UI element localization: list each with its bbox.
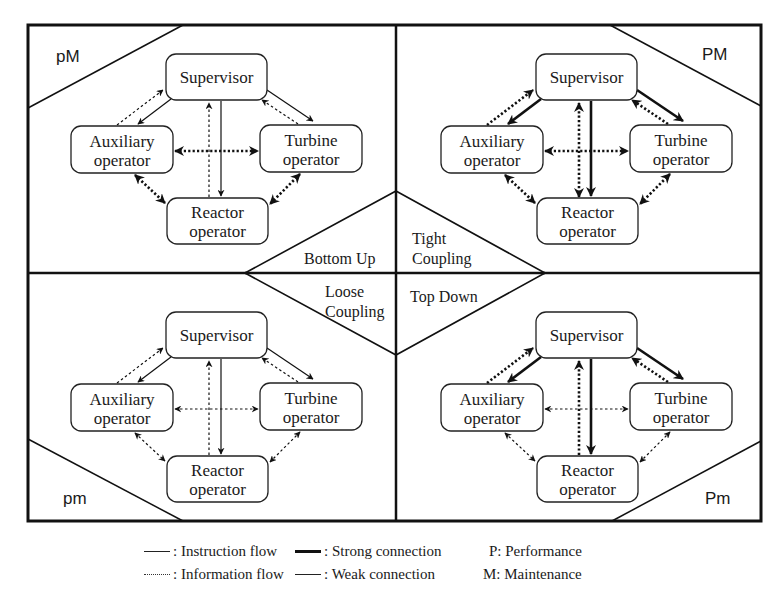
legend-strong-connection: : Strong connection (295, 540, 441, 563)
node-turbine: Turbineoperator (630, 125, 732, 172)
node-label: operator (189, 480, 246, 499)
corner-line-top-left (28, 25, 183, 108)
node-label: operator (653, 150, 710, 169)
node-label: Auxiliary (459, 132, 525, 151)
node-auxiliary: Auxiliaryoperator (441, 384, 543, 431)
solid-line-swatch (144, 551, 170, 552)
node-label: Turbine (284, 131, 337, 150)
node-label: Supervisor (550, 68, 624, 87)
edge-aux-reactor-info (505, 175, 535, 203)
dotted-line-swatch (144, 574, 170, 575)
node-label: Reactor (561, 203, 614, 222)
node-label: Supervisor (180, 326, 254, 345)
node-auxiliary: Auxiliaryoperator (71, 384, 173, 431)
legend-text: P: Performance (489, 540, 582, 563)
label-top-down: Top Down (410, 288, 478, 306)
node-label: Reactor (561, 461, 614, 480)
thin-line-swatch (295, 574, 321, 575)
node-label: Reactor (191, 203, 244, 222)
label-loose-coupling-2: Coupling (325, 303, 385, 321)
legend-text: : Strong connection (324, 540, 441, 563)
legend-information-flow: : Information flow (144, 563, 284, 586)
edge-turbine-reactor-info (640, 432, 670, 462)
legend-performance: P: Performance (483, 540, 582, 563)
quadrant-bottom-right: SupervisorAuxiliaryoperatorTurbineoperat… (441, 312, 732, 502)
edge-supervisor-to-turbine-instruction (267, 90, 313, 121)
edge-aux-reactor-info (135, 433, 165, 461)
node-label: Supervisor (550, 326, 624, 345)
edge-turbine-to-supervisor-info (262, 358, 298, 382)
legend-weak-connection: : Weak connection (295, 563, 441, 586)
edge-supervisor-to-aux-instruction (138, 99, 171, 124)
legend-abbreviations: P: Performance M: Maintenance (483, 540, 582, 586)
node-label: Turbine (654, 389, 707, 408)
node-label: Supervisor (180, 68, 254, 87)
quadrant-top-right: SupervisorAuxiliaryoperatorTurbineoperat… (441, 54, 732, 244)
node-label: operator (283, 150, 340, 169)
label-bottom-up: Bottom Up (304, 250, 376, 268)
legend-text: : Weak connection (324, 563, 435, 586)
legend-strength: : Strong connection : Weak connection (295, 540, 441, 586)
node-supervisor: Supervisor (166, 54, 267, 100)
label-tight-coupling-2: Coupling (412, 250, 472, 268)
edge-turbine-reactor-info (640, 174, 670, 204)
edge-aux-reactor-info (505, 433, 535, 461)
node-supervisor: Supervisor (166, 312, 267, 358)
node-label: operator (653, 408, 710, 427)
node-reactor: Reactoroperator (167, 456, 268, 502)
node-label: operator (559, 480, 616, 499)
node-turbine: Turbineoperator (260, 383, 362, 430)
node-label: operator (94, 409, 151, 428)
quadrant-label-top-left: pM (56, 47, 80, 66)
node-label: Reactor (191, 461, 244, 480)
edge-aux-reactor-info (135, 175, 165, 203)
corner-line-bottom-left (28, 439, 183, 521)
node-auxiliary: Auxiliaryoperator (71, 126, 173, 173)
edge-turbine-reactor-info (270, 174, 300, 204)
edge-supervisor-to-turbine-instruction (637, 90, 683, 121)
node-label: Auxiliary (89, 132, 155, 151)
node-label: operator (464, 151, 521, 170)
legend-text: : Information flow (173, 563, 284, 586)
node-reactor: Reactoroperator (537, 456, 638, 502)
node-auxiliary: Auxiliaryoperator (441, 126, 543, 173)
edge-aux-to-supervisor-info (117, 90, 163, 125)
edge-supervisor-to-aux-instruction (508, 357, 541, 382)
edge-aux-to-supervisor-info (117, 348, 163, 383)
legend-text: : Instruction flow (173, 540, 277, 563)
node-turbine: Turbineoperator (630, 383, 732, 430)
node-label: operator (189, 222, 246, 241)
node-turbine: Turbineoperator (260, 125, 362, 172)
node-label: operator (559, 222, 616, 241)
node-label: operator (464, 409, 521, 428)
edge-supervisor-to-aux-instruction (138, 357, 171, 382)
legend-instruction-flow: : Instruction flow (144, 540, 284, 563)
node-label: operator (283, 408, 340, 427)
quadrant-bottom-left: SupervisorAuxiliaryoperatorTurbineoperat… (71, 312, 362, 502)
node-label: Auxiliary (459, 390, 525, 409)
organization-diagram: pM PM pm Pm Bottom Up Tight Coupling Loo… (0, 0, 783, 611)
legend-flows: : Instruction flow : Information flow (144, 540, 284, 586)
legend-text: M: Maintenance (483, 563, 582, 586)
quadrant-label-top-right: PM (702, 45, 728, 64)
thick-line-swatch (295, 550, 321, 553)
edge-aux-to-supervisor-info (487, 348, 533, 383)
label-tight-coupling-1: Tight (412, 230, 447, 248)
quadrant-label-bottom-left: pm (63, 489, 87, 508)
legend-maintenance: M: Maintenance (483, 563, 582, 586)
edge-turbine-to-supervisor-info (632, 358, 668, 382)
node-label: operator (94, 151, 151, 170)
edge-turbine-reactor-info (270, 432, 300, 462)
edge-turbine-to-supervisor-info (632, 100, 668, 124)
node-label: Turbine (654, 131, 707, 150)
edge-supervisor-to-turbine-instruction (637, 348, 683, 379)
node-supervisor: Supervisor (536, 54, 637, 100)
quadrant-top-left: SupervisorAuxiliaryoperatorTurbineoperat… (71, 54, 362, 244)
edge-supervisor-to-turbine-instruction (267, 348, 313, 379)
node-label: Turbine (284, 389, 337, 408)
node-supervisor: Supervisor (536, 312, 637, 358)
node-reactor: Reactoroperator (537, 198, 638, 244)
quadrant-label-bottom-right: Pm (705, 489, 731, 508)
edge-supervisor-to-aux-instruction (508, 99, 541, 124)
edge-turbine-to-supervisor-info (262, 100, 298, 124)
